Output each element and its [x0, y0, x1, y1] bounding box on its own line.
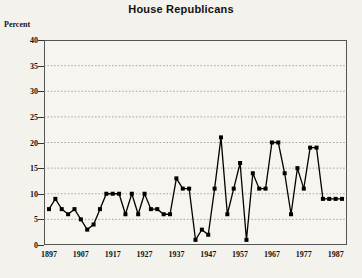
data-point	[238, 161, 242, 165]
data-point	[276, 141, 280, 145]
data-point	[123, 212, 127, 216]
x-tick-label: 1917	[96, 250, 130, 259]
data-point	[174, 176, 178, 180]
data-point	[206, 233, 210, 237]
x-tick-label: 1947	[191, 250, 225, 259]
data-point	[340, 197, 344, 201]
y-tick-label: 25	[16, 112, 38, 121]
data-point	[270, 141, 274, 145]
x-tick-label: 1927	[128, 250, 162, 259]
data-point	[155, 207, 159, 211]
data-point	[302, 187, 306, 191]
data-point	[251, 171, 255, 175]
y-tick-label: 5	[16, 215, 38, 224]
data-point	[213, 187, 217, 191]
x-tick-label: 1967	[255, 250, 289, 259]
data-point	[143, 192, 147, 196]
data-point	[168, 212, 172, 216]
data-point	[104, 192, 108, 196]
data-point	[194, 238, 198, 242]
data-point	[60, 207, 64, 211]
x-tick-label: 1897	[32, 250, 66, 259]
data-point	[149, 207, 153, 211]
chart-root: House Republicans Percent 05101520253035…	[0, 0, 362, 278]
y-tick-label: 40	[16, 36, 38, 45]
data-point	[130, 192, 134, 196]
data-point	[181, 187, 185, 191]
chart-title: House Republicans	[0, 3, 362, 15]
y-tick-label: 15	[16, 164, 38, 173]
data-point	[244, 238, 248, 242]
x-tick-label: 1937	[159, 250, 193, 259]
data-point	[47, 207, 51, 211]
data-point	[53, 197, 57, 201]
x-tick-label: 1907	[64, 250, 98, 259]
data-point	[283, 171, 287, 175]
data-point	[200, 228, 204, 232]
data-point	[111, 192, 115, 196]
data-point	[225, 212, 229, 216]
data-point	[79, 217, 83, 221]
x-tick-label: 1977	[287, 250, 321, 259]
data-point	[327, 197, 331, 201]
data-point	[257, 187, 261, 191]
data-point	[315, 146, 319, 150]
data-point	[66, 212, 70, 216]
data-point	[92, 223, 96, 227]
y-tick-mark	[38, 245, 44, 246]
y-tick-label: 0	[16, 241, 38, 250]
data-point	[334, 197, 338, 201]
x-tick-label: 1987	[319, 250, 353, 259]
data-point	[219, 135, 223, 139]
data-point	[295, 166, 299, 170]
gridlines	[44, 66, 347, 220]
data-point	[117, 192, 121, 196]
data-point	[232, 187, 236, 191]
y-tick-label: 30	[16, 87, 38, 96]
data-point	[308, 146, 312, 150]
data-point	[136, 212, 140, 216]
y-tick-label: 20	[16, 138, 38, 147]
data-point	[321, 197, 325, 201]
data-point	[187, 187, 191, 191]
data-point	[162, 212, 166, 216]
y-tick-label: 35	[16, 61, 38, 70]
data-point	[264, 187, 268, 191]
y-tick-label: 10	[16, 189, 38, 198]
data-point	[98, 207, 102, 211]
data-series-line	[44, 40, 347, 245]
y-axis-label: Percent	[4, 20, 30, 29]
data-point	[72, 207, 76, 211]
data-point	[289, 212, 293, 216]
data-point	[85, 228, 89, 232]
x-tick-label: 1957	[223, 250, 257, 259]
